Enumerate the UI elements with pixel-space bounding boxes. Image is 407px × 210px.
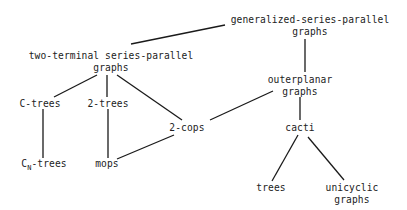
node-label-line2: graphs [264, 86, 336, 98]
node-label-line1: generalized-series-parallel [225, 14, 395, 26]
node-label: CN-trees [15, 158, 73, 174]
edge-cacti-trees [272, 135, 298, 181]
node-label: cacti [280, 122, 320, 134]
node-mops: mops [90, 158, 124, 170]
node-two-terminal-series-parallel-graphs: two-terminal series-parallel graphs [25, 50, 197, 74]
node-label: trees [252, 182, 290, 194]
node-cn-trees: CN-trees [15, 158, 73, 174]
node-outerplanar-graphs: outerplanar graphs [264, 74, 336, 98]
node-trees: trees [252, 182, 290, 194]
node-label: 2-trees [84, 98, 132, 110]
node-2-trees: 2-trees [84, 98, 132, 110]
cn-suffix: -trees [31, 158, 66, 169]
node-cacti: cacti [280, 122, 320, 134]
node-label: 2-cops [165, 122, 209, 134]
node-2-cops: 2-cops [165, 122, 209, 134]
edge-gsp-ttsp [131, 25, 225, 44]
edge-ttsp-ctrees [54, 75, 97, 97]
node-label-line1: outerplanar [264, 74, 336, 86]
node-label-line2: graphs [225, 26, 395, 38]
node-label-line1: two-terminal series-parallel [25, 50, 197, 62]
node-c-trees: C-trees [15, 98, 65, 110]
edge-cacti-unicyclic [308, 137, 344, 180]
node-generalized-series-parallel-graphs: generalized-series-parallel graphs [225, 14, 395, 38]
node-label-line2: graphs [322, 194, 382, 206]
node-unicyclic-graphs: unicyclic graphs [322, 182, 382, 206]
node-label: C-trees [15, 98, 65, 110]
node-label-line2: graphs [25, 62, 197, 74]
node-label-line1: unicyclic [322, 182, 382, 194]
node-label: mops [90, 158, 124, 170]
edge-2cops-mops [117, 135, 174, 159]
